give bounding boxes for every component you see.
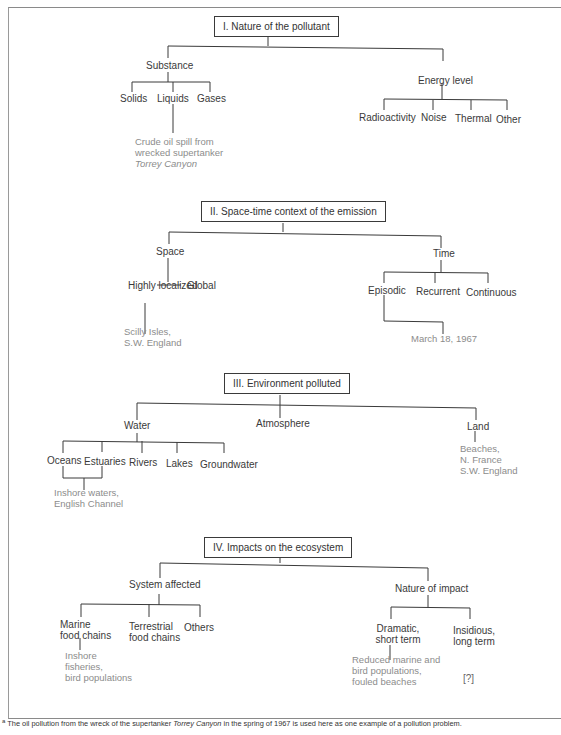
node-estuaries: Estuaries [84, 456, 126, 467]
node-space: Space [156, 246, 184, 257]
node-dramatic: Dramatic, short term [372, 623, 424, 645]
example-substance: Crude oil spill from wrecked supertanker… [135, 136, 223, 169]
node-time: Time [433, 248, 455, 259]
unknown-marker: [?] [463, 673, 474, 684]
node-other: Other [496, 114, 521, 125]
section-3-title: III. Environment polluted [224, 373, 350, 394]
node-lakes: Lakes [166, 458, 193, 469]
node-atmosphere: Atmosphere [256, 418, 310, 429]
node-gases: Gases [197, 93, 226, 104]
node-continuous: Continuous [466, 287, 517, 298]
node-substance: Substance [146, 60, 193, 71]
node-system-affected: System affected [129, 579, 201, 590]
example-system: Inshore fisheries, bird populations [65, 650, 132, 683]
node-liquids: Liquids [157, 93, 189, 104]
node-radioactivity: Radioactivity [359, 112, 416, 123]
node-rivers: Rivers [129, 457, 157, 468]
node-nature-of-impact: Nature of impact [395, 583, 468, 594]
node-water: Water [124, 420, 150, 431]
node-marine-food-chains: Marine food chains [60, 619, 112, 641]
node-noise: Noise [421, 112, 447, 123]
node-global: Global [187, 280, 216, 291]
node-thermal: Thermal [455, 113, 492, 124]
example-impact: Reduced marine and bird populations, fou… [352, 654, 440, 687]
example-space: Scilly Isles, S.W. England [124, 326, 182, 348]
node-recurrent: Recurrent [416, 286, 460, 297]
example-time: March 18, 1967 [411, 333, 477, 344]
node-energy-level: Energy level [418, 75, 473, 86]
section-4-title: IV. Impacts on the ecosystem [204, 537, 352, 558]
example-water: Inshore waters, English Channel [54, 487, 123, 509]
node-groundwater: Groundwater [200, 459, 258, 470]
node-episodic: Episodic [368, 285, 406, 296]
node-land: Land [467, 421, 489, 432]
section-2-title: II. Space-time context of the emission [201, 201, 386, 222]
example-land: Beaches, N. France S.W. England [460, 443, 518, 476]
node-terrestrial-food-chains: Terrestrial food chains [129, 621, 181, 643]
node-solids: Solids [120, 93, 147, 104]
node-oceans: Oceans [47, 455, 81, 466]
node-others: Others [184, 622, 214, 633]
section-1-title: I. Nature of the pollutant [214, 16, 339, 37]
footnote: a The oil pollution from the wreck of th… [2, 718, 462, 728]
node-insidious: Insidious, long term [452, 625, 496, 647]
